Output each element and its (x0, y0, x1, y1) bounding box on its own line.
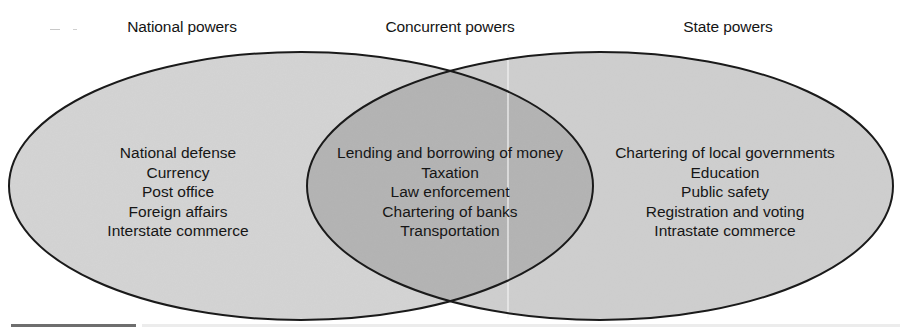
concurrent-powers-list: Lending and borrowing of money Taxation … (337, 143, 563, 241)
list-item: Transportation (337, 221, 563, 241)
list-item: Interstate commerce (107, 221, 248, 241)
heading-state-powers: State powers (683, 18, 772, 36)
list-item: National defense (107, 143, 248, 163)
list-item: Foreign affairs (107, 202, 248, 222)
list-item: Lending and borrowing of money (337, 143, 563, 163)
list-item: Intrastate commerce (615, 221, 835, 241)
list-item: Education (615, 163, 835, 183)
heading-concurrent-powers: Concurrent powers (385, 18, 514, 36)
list-item: Registration and voting (615, 202, 835, 222)
list-item: Public safety (615, 182, 835, 202)
list-item: Chartering of local governments (615, 143, 835, 163)
list-item: Post office (107, 182, 248, 202)
state-powers-list: Chartering of local governments Educatio… (615, 143, 835, 241)
list-item: Currency (107, 163, 248, 183)
list-item: Law enforcement (337, 182, 563, 202)
scan-artifact (50, 29, 60, 30)
list-item: Taxation (337, 163, 563, 183)
national-powers-list: National defense Currency Post office Fo… (107, 143, 248, 241)
scan-artifact (73, 29, 77, 30)
list-item: Chartering of banks (337, 202, 563, 222)
heading-national-powers: National powers (127, 18, 237, 36)
